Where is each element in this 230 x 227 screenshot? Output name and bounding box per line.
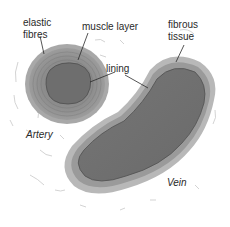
label-vein: Vein <box>167 178 187 188</box>
artery <box>25 44 109 124</box>
label-fibrous-line2: tissue <box>168 32 198 42</box>
label-fibrous-tissue: fibrous tissue <box>168 20 198 42</box>
label-elastic-line2: fibres <box>23 30 51 40</box>
label-muscle-layer: muscle layer <box>82 22 138 32</box>
label-elastic-line1: elastic <box>23 18 51 28</box>
label-lining: lining <box>106 64 129 74</box>
artery-lumen <box>46 63 91 104</box>
label-artery: Artery <box>26 130 53 140</box>
label-elastic-fibres: elastic fibres <box>23 18 51 40</box>
label-fibrous-line1: fibrous <box>168 20 198 30</box>
diagram-canvas: elastic fibres muscle layer fibrous tiss… <box>0 0 230 227</box>
